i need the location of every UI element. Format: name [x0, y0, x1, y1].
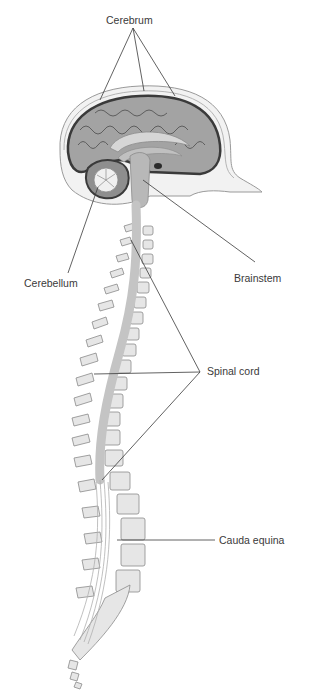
label-cerebellum: Cerebellum: [24, 277, 78, 289]
label-cauda-equina: Cauda equina: [219, 534, 284, 546]
cerebellum-shape: [86, 160, 129, 198]
label-brainstem: Brainstem: [234, 272, 281, 284]
label-spinal-cord: Spinal cord: [207, 365, 260, 377]
label-cerebrum: Cerebrum: [106, 14, 153, 26]
cns-diagram: [0, 0, 309, 690]
